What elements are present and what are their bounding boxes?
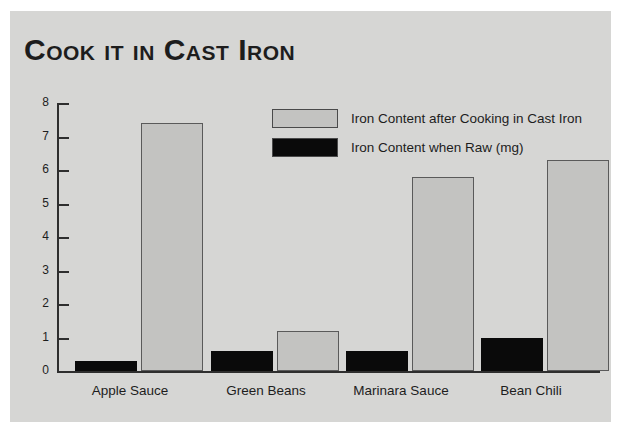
bar-cooked-bean-chili [547, 160, 609, 371]
bar-raw-apple-sauce [75, 361, 137, 371]
bar-group-green-beans: Green Beans [203, 103, 329, 371]
bar-group-bean-chili: Bean Chili [473, 103, 599, 371]
bar-cooked-apple-sauce [141, 123, 203, 371]
bar-cooked-marinara-sauce [412, 177, 474, 371]
bar-group-marinara-sauce: Marinara Sauce [338, 103, 464, 371]
x-tick-label-marinara-sauce: Marinara Sauce [338, 383, 464, 398]
page-title: Cook it in Cast Iron [24, 35, 295, 65]
bar-cooked-green-beans [277, 331, 339, 371]
chart-figure: Cook it in Cast Iron Iron Content after … [10, 11, 611, 422]
bar-raw-bean-chili [481, 338, 543, 372]
x-axis-line [57, 371, 600, 373]
x-tick-label-apple-sauce: Apple Sauce [67, 383, 193, 398]
x-tick-label-bean-chili: Bean Chili [468, 383, 594, 398]
plot-area: 8 7 6 5 4 3 2 1 [57, 103, 600, 373]
bar-group-apple-sauce: Apple Sauce [67, 103, 193, 371]
bar-raw-marinara-sauce [346, 351, 408, 371]
x-tick-label-green-beans: Green Beans [203, 383, 329, 398]
bar-raw-green-beans [211, 351, 273, 371]
